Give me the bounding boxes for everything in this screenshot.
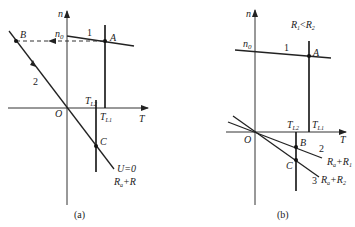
point-C-label: C [100, 136, 107, 147]
origin-label: O [244, 134, 251, 145]
curve-3-label: 3 [312, 175, 317, 186]
point-B-marker [14, 39, 18, 43]
resistance-relation-label: R1<R2 [290, 19, 315, 31]
n-axis-label: n [58, 8, 63, 19]
resistance-label: Ra+R [113, 176, 136, 188]
point-B-label: B [300, 137, 306, 148]
point-B-marker [294, 145, 298, 149]
point-B-label: B [20, 29, 26, 40]
point-C-marker [94, 144, 98, 148]
point-A-label: A [312, 47, 320, 58]
caption-b: (b) [277, 209, 289, 221]
point-C-label: C [286, 160, 293, 171]
resistance-2-label: Ra+R1 [326, 156, 352, 168]
T-axis-label: T [139, 113, 146, 124]
curve-1-label: 1 [87, 27, 92, 38]
arrow-left-icon [48, 38, 56, 44]
curve-2 [228, 122, 322, 158]
curve-2-label: 2 [319, 143, 324, 154]
n-axis-label: n [246, 8, 251, 19]
panel-a: n T O n0 1 A 2 B C TL2 TL1 U=0 Ra+R ( [8, 8, 148, 221]
curve-1-label: 1 [284, 42, 289, 53]
TL2-label: TL2 [287, 119, 299, 131]
panel-b: n T O R1<R2 n0 1 A TL2 TL1 B C 2 3 Ra+R1… [226, 8, 352, 221]
voltage-condition-label: U=0 [117, 163, 136, 174]
origin-label: O [55, 108, 62, 119]
resistance-3-label: Ra+R2 [320, 174, 346, 186]
point-A-label: A [109, 32, 117, 43]
TL1-label: TL1 [100, 111, 112, 123]
n0-label: n0 [55, 28, 64, 41]
point-A-marker [307, 54, 311, 58]
curve-2-label: 2 [33, 76, 38, 87]
TL1-label: TL1 [312, 119, 324, 131]
point-C-marker [294, 158, 298, 162]
motor-characteristics-diagram: n T O n0 1 A 2 B C TL2 TL1 U=0 Ra+R ( [0, 0, 355, 227]
caption-a: (a) [74, 209, 85, 221]
curve-2 [9, 31, 114, 169]
n0-label: n0 [243, 38, 252, 51]
T-axis-label: T [340, 134, 347, 145]
arrow-up-icon [30, 60, 36, 67]
TL2-label: TL2 [85, 95, 97, 107]
